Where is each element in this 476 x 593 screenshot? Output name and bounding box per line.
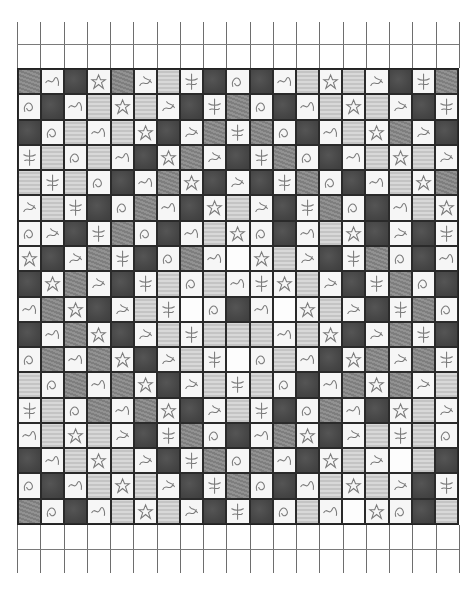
sketch-motif-icon bbox=[204, 474, 225, 497]
tile-6-5 bbox=[111, 195, 134, 220]
tile-7-4 bbox=[87, 221, 110, 246]
tile-6-13 bbox=[296, 195, 319, 220]
sketch-motif-icon bbox=[251, 399, 272, 422]
tile-13-17 bbox=[389, 372, 412, 397]
tile-6-11 bbox=[250, 195, 273, 220]
tile-4-2 bbox=[41, 145, 64, 170]
tile-14-2 bbox=[41, 398, 64, 423]
tile-18-17 bbox=[389, 499, 412, 524]
tile-2-9 bbox=[203, 94, 226, 119]
tile-2-1 bbox=[18, 94, 41, 119]
tile-4-1 bbox=[18, 145, 41, 170]
sketch-motif-icon bbox=[19, 298, 40, 321]
sketch-motif-icon bbox=[343, 222, 364, 245]
sketch-motif-icon bbox=[297, 399, 318, 422]
tile-17-2 bbox=[41, 473, 64, 498]
sketch-motif-icon bbox=[320, 171, 341, 194]
tile-11-15 bbox=[342, 322, 365, 347]
tile-13-9 bbox=[203, 372, 226, 397]
tile-18-7 bbox=[157, 499, 180, 524]
tile-2-6 bbox=[134, 94, 157, 119]
tile-11-17 bbox=[389, 322, 412, 347]
sketch-motif-icon bbox=[343, 348, 364, 371]
tile-10-8 bbox=[180, 297, 203, 322]
tile-16-6 bbox=[134, 448, 157, 473]
tile-13-1 bbox=[18, 372, 41, 397]
tile-8-14 bbox=[319, 246, 342, 271]
sketch-motif-icon bbox=[390, 298, 411, 321]
tile-1-10 bbox=[226, 69, 249, 94]
sketch-motif-icon bbox=[204, 424, 225, 447]
tile-1-8 bbox=[180, 69, 203, 94]
sketch-motif-icon bbox=[112, 348, 133, 371]
sketch-motif-icon bbox=[390, 500, 411, 523]
sketch-motif-icon bbox=[251, 348, 272, 371]
tile-3-9 bbox=[203, 120, 226, 145]
tile-14-13 bbox=[296, 398, 319, 423]
sketch-motif-icon bbox=[274, 121, 295, 144]
tile-17-6 bbox=[134, 473, 157, 498]
tile-6-1 bbox=[18, 195, 41, 220]
tile-14-17 bbox=[389, 398, 412, 423]
tile-5-13 bbox=[296, 170, 319, 195]
sketch-motif-icon bbox=[227, 121, 248, 144]
tile-10-3 bbox=[64, 297, 87, 322]
tile-9-10 bbox=[226, 271, 249, 296]
tile-11-12 bbox=[273, 322, 296, 347]
sketch-motif-icon bbox=[135, 70, 156, 93]
tile-5-15 bbox=[342, 170, 365, 195]
tile-3-15 bbox=[342, 120, 365, 145]
sketch-motif-icon bbox=[181, 121, 202, 144]
tile-12-17 bbox=[389, 347, 412, 372]
sketch-motif-icon bbox=[274, 272, 295, 295]
tile-5-3 bbox=[64, 170, 87, 195]
sketch-motif-icon bbox=[88, 449, 109, 472]
sketch-motif-icon bbox=[251, 196, 272, 219]
tile-13-19 bbox=[435, 372, 458, 397]
sketch-motif-icon bbox=[320, 449, 341, 472]
tile-9-9 bbox=[203, 271, 226, 296]
tile-10-17 bbox=[389, 297, 412, 322]
grid-line-vertical bbox=[157, 22, 158, 68]
sketch-motif-icon bbox=[135, 449, 156, 472]
tile-10-13 bbox=[296, 297, 319, 322]
tile-9-5 bbox=[111, 271, 134, 296]
sketch-motif-icon bbox=[366, 500, 387, 523]
sketch-motif-icon bbox=[158, 399, 179, 422]
tile-9-3 bbox=[64, 271, 87, 296]
tile-4-3 bbox=[64, 145, 87, 170]
tile-6-18 bbox=[412, 195, 435, 220]
sketch-motif-icon bbox=[158, 298, 179, 321]
tile-13-4 bbox=[87, 372, 110, 397]
sketch-motif-icon bbox=[436, 247, 457, 270]
sketch-motif-icon bbox=[390, 474, 411, 497]
tile-1-11 bbox=[250, 69, 273, 94]
tile-18-1 bbox=[18, 499, 41, 524]
tile-15-5 bbox=[111, 423, 134, 448]
sketch-motif-icon bbox=[436, 348, 457, 371]
tile-9-2 bbox=[41, 271, 64, 296]
tile-17-18 bbox=[412, 473, 435, 498]
tile-15-13 bbox=[296, 423, 319, 448]
tile-17-12 bbox=[273, 473, 296, 498]
sketch-motif-icon bbox=[88, 373, 109, 396]
tile-5-19 bbox=[435, 170, 458, 195]
tile-18-14 bbox=[319, 499, 342, 524]
sketch-motif-icon bbox=[158, 474, 179, 497]
sketch-motif-icon bbox=[204, 247, 225, 270]
sketch-motif-icon bbox=[320, 121, 341, 144]
grid-line-vertical bbox=[87, 22, 88, 68]
sketch-motif-icon bbox=[158, 348, 179, 371]
tile-18-6 bbox=[134, 499, 157, 524]
tile-8-19 bbox=[435, 246, 458, 271]
sketch-motif-icon bbox=[19, 247, 40, 270]
tile-10-4 bbox=[87, 297, 110, 322]
sketch-motif-icon bbox=[413, 373, 434, 396]
tile-5-1 bbox=[18, 170, 41, 195]
tile-1-12 bbox=[273, 69, 296, 94]
tile-10-5 bbox=[111, 297, 134, 322]
sketch-motif-icon bbox=[65, 298, 86, 321]
tile-2-16 bbox=[365, 94, 388, 119]
tile-4-19 bbox=[435, 145, 458, 170]
tile-10-9 bbox=[203, 297, 226, 322]
